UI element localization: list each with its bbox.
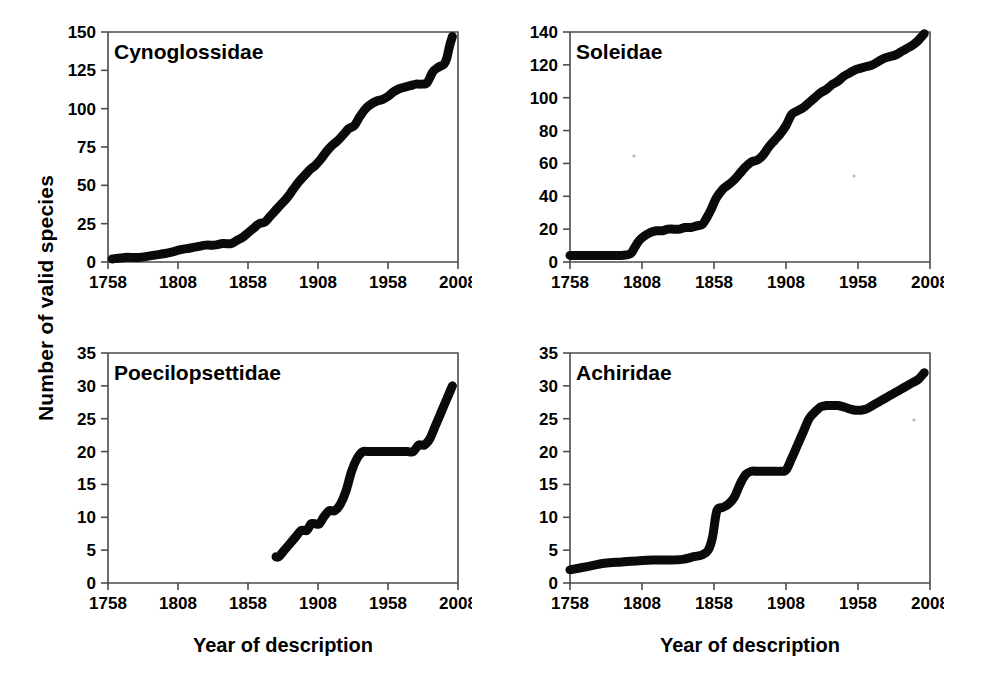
panel-title-soleidae: Soleidae bbox=[576, 40, 662, 64]
tick-label: 1758 bbox=[89, 273, 127, 292]
tick-label: 2008 bbox=[911, 273, 944, 292]
tick-label: 15 bbox=[539, 475, 558, 494]
panel-achiridae-plot: 05101520253035 175818081858190819582008 bbox=[524, 345, 944, 615]
curve-achiridae bbox=[570, 373, 924, 570]
tick-label: 1808 bbox=[623, 594, 661, 613]
tick-label: 1958 bbox=[839, 273, 877, 292]
x-tick-group: 175818081858190819582008 bbox=[551, 262, 944, 292]
y-tick-group: 05101520253035 bbox=[539, 345, 570, 593]
tick-label: 1758 bbox=[89, 594, 127, 613]
tick-label: 125 bbox=[68, 61, 96, 80]
tick-label: 75 bbox=[77, 138, 96, 157]
tick-label: 1908 bbox=[299, 273, 337, 292]
panel-title-poecilopsettidae: Poecilopsettidae bbox=[114, 361, 281, 385]
panel-title-achiridae: Achiridae bbox=[576, 361, 672, 385]
y-tick-group: 05101520253035 bbox=[77, 345, 108, 593]
tick-label: 1958 bbox=[839, 594, 877, 613]
tick-label: 120 bbox=[530, 56, 558, 75]
tick-label: 1808 bbox=[159, 594, 197, 613]
panel-cynoglossidae-plot: 0255075100125150 17581808185819081958200… bbox=[62, 24, 472, 294]
panel-poecilopsettidae-plot: 05101520253035 175818081858190819582008 bbox=[62, 345, 472, 615]
x-tick-group: 175818081858190819582008 bbox=[551, 583, 944, 613]
tick-label: 0 bbox=[549, 253, 558, 272]
tick-label: 20 bbox=[539, 220, 558, 239]
tick-label: 35 bbox=[77, 345, 96, 363]
x-tick-group: 175818081858190819582008 bbox=[89, 583, 472, 613]
tick-label: 1808 bbox=[623, 273, 661, 292]
y-axis-title: Number of valid species bbox=[34, 88, 58, 508]
tick-label: 50 bbox=[77, 176, 96, 195]
tick-label: 0 bbox=[87, 253, 96, 272]
tick-label: 1958 bbox=[369, 273, 407, 292]
x-axis-title-left: Year of description bbox=[108, 634, 458, 657]
tick-label: 1758 bbox=[551, 273, 589, 292]
tick-label: 100 bbox=[530, 89, 558, 108]
tick-label: 10 bbox=[539, 508, 558, 527]
tick-label: 10 bbox=[77, 508, 96, 527]
tick-label: 1858 bbox=[695, 594, 733, 613]
tick-label: 0 bbox=[87, 574, 96, 593]
tick-label: 1908 bbox=[767, 273, 805, 292]
tick-label: 5 bbox=[87, 541, 96, 560]
panel-cynoglossidae: 0255075100125150 17581808185819081958200… bbox=[62, 24, 472, 294]
tick-label: 1908 bbox=[767, 594, 805, 613]
tick-label: 80 bbox=[539, 122, 558, 141]
tick-label: 2008 bbox=[439, 273, 472, 292]
tick-label: 0 bbox=[549, 574, 558, 593]
tick-label: 30 bbox=[539, 377, 558, 396]
tick-label: 25 bbox=[77, 215, 96, 234]
curve-soleidae bbox=[570, 34, 924, 256]
axis-group bbox=[108, 32, 458, 262]
curve-cynoglossidae bbox=[112, 37, 452, 259]
species-accumulation-figure: Number of valid species 0255075100125150… bbox=[0, 0, 996, 679]
tick-label: 20 bbox=[539, 443, 558, 462]
tick-label: 1858 bbox=[695, 273, 733, 292]
panel-achiridae: 05101520253035 175818081858190819582008 … bbox=[524, 345, 944, 615]
tick-label: 140 bbox=[530, 24, 558, 42]
x-axis-title-right: Year of description bbox=[570, 634, 930, 657]
tick-label: 2008 bbox=[911, 594, 944, 613]
y-tick-group: 020406080100120140 bbox=[530, 24, 570, 272]
curve-poecilopsettidae bbox=[276, 386, 452, 557]
tick-label: 25 bbox=[77, 410, 96, 429]
tick-label: 35 bbox=[539, 345, 558, 363]
panel-title-cynoglossidae: Cynoglossidae bbox=[114, 40, 263, 64]
tick-label: 2008 bbox=[439, 594, 472, 613]
tick-label: 1958 bbox=[369, 594, 407, 613]
tick-label: 150 bbox=[68, 24, 96, 42]
tick-label: 1858 bbox=[229, 594, 267, 613]
tick-label: 60 bbox=[539, 154, 558, 173]
y-tick-group: 0255075100125150 bbox=[68, 24, 108, 272]
tick-label: 5 bbox=[549, 541, 558, 560]
x-tick-group: 175818081858190819582008 bbox=[89, 262, 472, 292]
panel-soleidae: 020406080100120140 175818081858190819582… bbox=[524, 24, 944, 294]
tick-label: 100 bbox=[68, 100, 96, 119]
tick-label: 20 bbox=[77, 443, 96, 462]
tick-label: 25 bbox=[539, 410, 558, 429]
tick-label: 1858 bbox=[229, 273, 267, 292]
panel-soleidae-plot: 020406080100120140 175818081858190819582… bbox=[524, 24, 944, 294]
tick-label: 1908 bbox=[299, 594, 337, 613]
panel-poecilopsettidae: 05101520253035 175818081858190819582008 … bbox=[62, 345, 472, 615]
tick-label: 15 bbox=[77, 475, 96, 494]
tick-label: 30 bbox=[77, 377, 96, 396]
tick-label: 40 bbox=[539, 187, 558, 206]
tick-label: 1758 bbox=[551, 594, 589, 613]
tick-label: 1808 bbox=[159, 273, 197, 292]
